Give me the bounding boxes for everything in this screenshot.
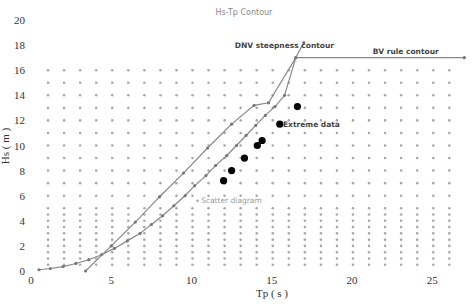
scatter-point (207, 263, 210, 266)
scatter-point (239, 257, 242, 260)
scatter-point (400, 69, 403, 72)
scatter-point (255, 238, 258, 241)
scatter-point (143, 119, 146, 122)
scatter-point (432, 194, 435, 197)
scatter-point (255, 251, 258, 254)
scatter-point (223, 207, 226, 210)
scatter-point (368, 107, 371, 110)
contour-marker (283, 94, 286, 97)
scatter-point (223, 94, 226, 97)
scatter-point (352, 157, 355, 160)
scatter-point (175, 263, 178, 266)
scatter-point (255, 69, 258, 72)
scatter-point (143, 132, 146, 135)
scatter-point (432, 238, 435, 241)
scatter-point (63, 119, 66, 122)
scatter-point (127, 132, 130, 135)
scatter-point (288, 220, 291, 223)
scatter-point (271, 245, 274, 248)
scatter-point (239, 245, 242, 248)
scatter-point (47, 257, 50, 260)
scatter-point (368, 220, 371, 223)
scatter-point (384, 157, 387, 160)
scatter-point (207, 245, 210, 248)
scatter-point (320, 220, 323, 223)
bv-rule-contour-line (39, 58, 464, 270)
scatter-point (175, 157, 178, 160)
x-axis-ticks: 0510152025 (28, 274, 438, 286)
scatter-point (159, 157, 162, 160)
contour-marker (193, 184, 196, 187)
scatter-point (320, 107, 323, 110)
scatter-point (95, 144, 98, 147)
scatter-point (416, 182, 419, 185)
scatter-point (304, 220, 307, 223)
scatter-point (127, 69, 130, 72)
scatter-point (368, 257, 371, 260)
contour-marker (87, 258, 90, 261)
scatter-point (191, 263, 194, 266)
scatter-point (159, 245, 162, 248)
scatter-point (448, 69, 451, 72)
scatter-point (336, 238, 339, 241)
y-tick-label: 18 (14, 39, 26, 51)
scatter-point (368, 245, 371, 248)
scatter-point (255, 94, 258, 97)
x-tick-label: 10 (186, 274, 198, 286)
contour-marker (134, 220, 137, 223)
dnv-steepness-contour-line (86, 43, 304, 271)
scatter-point (159, 251, 162, 254)
contour-marker (150, 223, 153, 226)
scatter-point (320, 257, 323, 260)
scatter-point (352, 69, 355, 72)
scatter-point (111, 251, 114, 254)
scatter-point (63, 251, 66, 254)
scatter-point (207, 213, 210, 216)
contour-marker (49, 267, 52, 270)
scatter-point (320, 263, 323, 266)
contour-marker (161, 214, 164, 217)
scatter-point (95, 245, 98, 248)
scatter-point (288, 144, 291, 147)
scatter-point (111, 257, 114, 260)
annotation-label: Extreme data (283, 120, 340, 129)
scatter-point (288, 182, 291, 185)
contour-marker (463, 56, 466, 59)
contour-marker (294, 56, 297, 59)
contour-marker (62, 265, 65, 268)
scatter-point (159, 207, 162, 210)
scatter-point (400, 220, 403, 223)
scatter-point (400, 245, 403, 248)
scatter-point (207, 119, 210, 122)
scatter-point (95, 81, 98, 84)
scatter-point (191, 169, 194, 172)
scatter-point (111, 69, 114, 72)
y-axis-label: Hs ( m ) (0, 127, 12, 164)
scatter-point (63, 81, 66, 84)
scatter-point (63, 169, 66, 172)
scatter-point (448, 232, 451, 235)
scatter-point (95, 132, 98, 135)
scatter-point (47, 144, 50, 147)
scatter-point (271, 132, 274, 135)
scatter-point (416, 251, 419, 254)
scatter-point (416, 157, 419, 160)
scatter-point (288, 94, 291, 97)
scatter-point (336, 169, 339, 172)
scatter-point (416, 263, 419, 266)
scatter-point (79, 157, 82, 160)
scatter-point (239, 238, 242, 241)
scatter-point (400, 81, 403, 84)
y-tick-label: 12 (14, 114, 25, 126)
scatter-point (95, 251, 98, 254)
scatter-point (79, 220, 82, 223)
scatter-point (79, 69, 82, 72)
contour-marker (244, 134, 247, 137)
scatter-point (336, 107, 339, 110)
scatter-point (416, 132, 419, 135)
scatter-point (127, 94, 130, 97)
scatter-point (304, 169, 307, 172)
contour-marker (139, 232, 142, 235)
scatter-point (384, 257, 387, 260)
scatter-point (448, 119, 451, 122)
